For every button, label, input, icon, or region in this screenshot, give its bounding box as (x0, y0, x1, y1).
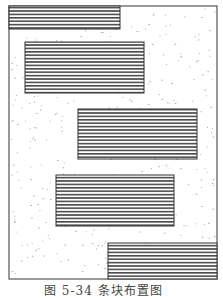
striped-block-2 (25, 42, 144, 93)
striped-block-1 (9, 6, 120, 29)
striped-block-5 (108, 243, 217, 279)
striped-block-4 (56, 175, 174, 226)
block-group (9, 6, 217, 279)
striped-block-3 (78, 109, 197, 159)
figure-caption: 图 5-34 条块布置图 (44, 281, 163, 298)
